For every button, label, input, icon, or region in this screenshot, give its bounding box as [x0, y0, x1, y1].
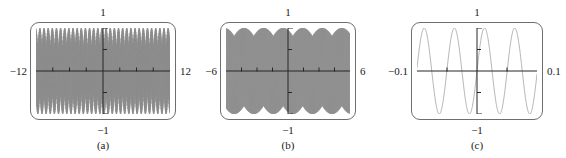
- plot-canvas-3: [417, 28, 537, 114]
- panel-caption-1: (a): [97, 140, 109, 151]
- y-max-label-1: 1: [100, 7, 106, 18]
- y-min-label-3: −1: [471, 125, 483, 136]
- plot-canvas-1: [36, 28, 170, 114]
- panel-caption-3: (c): [471, 140, 483, 151]
- panel-caption-2: (b): [282, 140, 295, 151]
- x-max-label-1: 12: [180, 66, 191, 77]
- x-min-label-3: −0.1: [388, 66, 408, 77]
- x-min-label-2: −6: [205, 66, 217, 77]
- y-max-label-2: 1: [285, 7, 291, 18]
- y-max-label-3: 1: [474, 7, 480, 18]
- figure-three-plots: 1−1−1212(a)1−1−66(b)1−1−0.10.1(c): [0, 0, 566, 158]
- x-max-label-2: 6: [360, 66, 366, 77]
- x-min-label-1: −12: [10, 66, 27, 77]
- y-min-label-2: −1: [282, 125, 294, 136]
- plot-canvas-2: [226, 28, 350, 114]
- y-min-label-1: −1: [97, 125, 109, 136]
- x-max-label-3: 0.1: [547, 66, 561, 77]
